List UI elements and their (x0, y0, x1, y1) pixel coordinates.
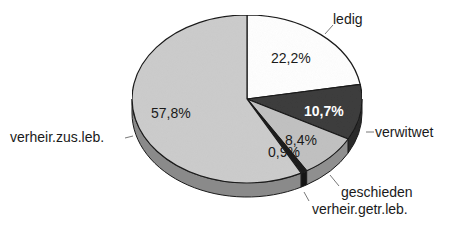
label-verwitwet: verwitwet (375, 124, 433, 140)
leader-zus (125, 136, 133, 138)
leader-getr (304, 192, 309, 201)
pct-verwitwet: 10,7% (304, 103, 344, 119)
leader-geschieden (330, 175, 339, 186)
pct-ledig: 22,2% (271, 50, 311, 66)
label-geschieden: geschieden (341, 184, 413, 200)
label-ledig: ledig (333, 11, 363, 27)
pct-zus: 57,8% (151, 105, 191, 121)
leader-ledig (325, 25, 333, 34)
label-zus: verheir.zus.leb. (10, 129, 104, 145)
pie-chart: 22,2% 10,7% 8,4% 0,9% 57,8% ledig verwit… (0, 0, 450, 226)
pie-top (132, 15, 362, 183)
pct-getr: 0,9% (268, 144, 300, 160)
label-getr: verheir.getr.leb. (312, 201, 408, 217)
